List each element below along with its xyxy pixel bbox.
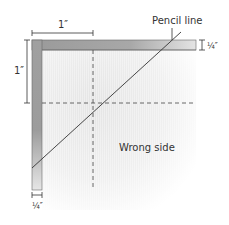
dim-right-label: ¼″ <box>207 42 218 51</box>
pencil-line-label: Pencil line <box>152 15 202 26</box>
fabric-area <box>42 50 196 210</box>
dim-left-label: 1″ <box>14 65 24 76</box>
left-hem-bar <box>32 40 42 190</box>
mitered-corner-diagram: 1″ 1″ ¼″ ¼″ Pencil line Wrong side <box>0 0 229 225</box>
top-hem-bar <box>32 40 196 50</box>
dimension-left <box>24 40 30 103</box>
dim-top-label: 1″ <box>58 19 68 30</box>
wrong-side-label: Wrong side <box>119 142 175 153</box>
dim-bottom-label: ¼″ <box>32 202 43 211</box>
dimension-right <box>199 40 205 50</box>
dimension-bottom <box>32 192 42 198</box>
dimension-top <box>32 30 93 36</box>
